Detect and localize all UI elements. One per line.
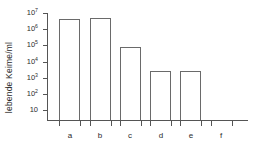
y-tick-label: 103 [12,74,38,82]
x-tick-mark [120,121,121,126]
bar-e [180,71,201,120]
y-tick-mark [43,13,48,14]
x-tick-mark [211,121,212,126]
y-tick-mark [43,94,48,95]
y-tick-mark [43,78,48,79]
x-tick-mark [150,121,151,126]
bar-c [120,47,141,120]
y-tick-label: 10 [12,106,38,114]
bar-chart: lebende Keime/ml 10102103104105106107 ab… [0,0,257,155]
x-tick-mark [80,121,81,126]
x-label-c: c [120,131,140,141]
x-tick-mark [111,121,112,126]
x-tick-mark [90,121,91,126]
x-tick-mark [171,121,172,126]
x-tick-mark [59,121,60,126]
x-label-d: d [151,131,171,141]
bar-a [59,19,80,120]
y-tick-label: 102 [12,90,38,98]
x-label-e: e [181,131,201,141]
x-label-b: b [90,131,110,141]
y-tick-label: 104 [12,58,38,66]
bar-b [90,18,111,120]
y-tick-mark [43,45,48,46]
y-tick-label: 105 [12,41,38,49]
x-tick-mark [180,121,181,126]
x-label-a: a [60,131,80,141]
y-tick-mark [43,110,48,111]
bar-d [150,71,171,120]
x-tick-mark [141,121,142,126]
x-tick-mark [201,121,202,126]
x-tick-mark [232,121,233,126]
y-tick-mark [43,62,48,63]
x-label-f: f [211,131,231,141]
y-tick-mark [43,29,48,30]
y-tick-label: 107 [12,9,38,17]
y-tick-label: 106 [12,25,38,33]
x-axis-line [47,120,248,121]
